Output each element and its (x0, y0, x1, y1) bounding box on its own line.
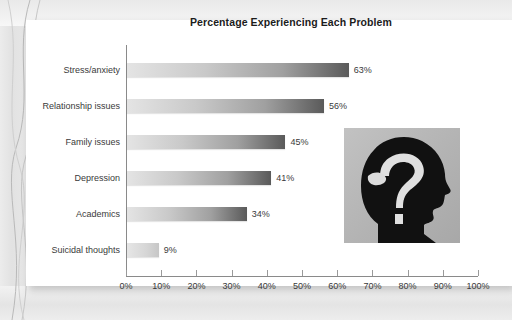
category-label-row: Academics (8, 209, 120, 221)
x-axis-tick (302, 270, 303, 276)
bar (127, 207, 247, 221)
bar (127, 171, 271, 185)
x-axis-tick-label: 100% (466, 281, 489, 291)
x-axis-tick-label: 40% (258, 281, 276, 291)
x-axis-tick-label: 20% (187, 281, 205, 291)
bar-value-label: 56% (329, 101, 347, 111)
bar-value-label: 41% (276, 173, 294, 183)
bar-value-label: 34% (252, 209, 270, 219)
x-axis-tick-label: 60% (328, 281, 346, 291)
y-axis-line (126, 45, 127, 276)
category-label: Stress/anxiety (63, 65, 120, 75)
x-axis-tick-label: 10% (152, 281, 170, 291)
category-label-row: Relationship issues (8, 101, 120, 113)
category-label: Family issues (65, 137, 120, 147)
x-axis-tick-label: 30% (223, 281, 241, 291)
x-axis-tick (337, 270, 338, 276)
bar-value-label: 45% (290, 137, 308, 147)
x-axis-tick (408, 270, 409, 276)
x-axis-tick (267, 270, 268, 276)
bar (127, 243, 159, 257)
x-axis-tick (372, 270, 373, 276)
category-label-row: Family issues (8, 137, 120, 149)
category-label: Relationship issues (42, 101, 120, 111)
x-axis-tick (196, 270, 197, 276)
category-label: Academics (76, 209, 120, 219)
x-axis-tick (478, 270, 479, 276)
category-label: Depression (74, 173, 120, 183)
x-axis-tick (443, 270, 444, 276)
x-axis-tick-label: 70% (363, 281, 381, 291)
x-axis-tick (126, 270, 127, 276)
x-axis-tick-label: 90% (434, 281, 452, 291)
slide-canvas: Percentage Experiencing Each Problem 0%1… (0, 0, 512, 320)
bar (127, 63, 349, 77)
x-axis-tick-label: 80% (399, 281, 417, 291)
category-label-row: Depression (8, 173, 120, 185)
x-axis-tick-label: 0% (119, 281, 132, 291)
category-label-row: Suicidal thoughts (8, 245, 120, 257)
bar-value-label: 63% (354, 65, 372, 75)
bar (127, 135, 285, 149)
category-label: Suicidal thoughts (51, 245, 120, 255)
bar-value-label: 9% (164, 245, 177, 255)
x-axis-tick (232, 270, 233, 276)
bar (127, 99, 324, 113)
x-axis-line (126, 276, 478, 277)
x-axis-tick-label: 50% (293, 281, 311, 291)
category-label-row: Stress/anxiety (8, 65, 120, 77)
x-axis-tick (161, 270, 162, 276)
head-brain-illustration (344, 128, 460, 243)
